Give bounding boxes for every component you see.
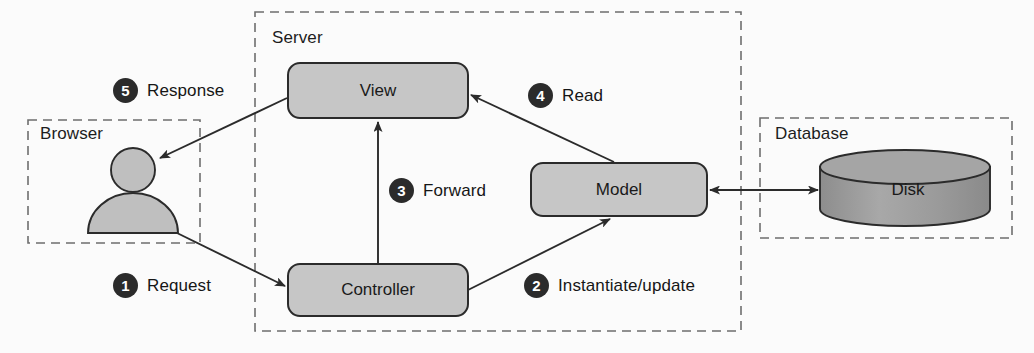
arrow-response — [160, 98, 287, 158]
node-label-disk: Disk — [848, 180, 968, 200]
node-label-controller: Controller — [288, 280, 468, 300]
step-badge-3: 3 — [389, 178, 414, 203]
step-label-instantiate-update: Instantiate/update — [558, 276, 695, 296]
step-badge-5: 5 — [113, 78, 138, 103]
step-badge-4: 4 — [528, 83, 553, 108]
mvc-architecture-diagram: Browser Server Database View Controller … — [0, 0, 1034, 353]
step-label-read: Read — [562, 86, 603, 106]
step-1-request: 1 Request — [113, 273, 211, 298]
step-2-instantiate-update: 2 Instantiate/update — [524, 273, 695, 298]
node-label-model: Model — [531, 180, 707, 200]
user-avatar-icon — [88, 148, 178, 233]
step-4-read: 4 Read — [528, 83, 603, 108]
step-label-forward: Forward — [423, 181, 486, 201]
group-label-database: Database — [775, 124, 849, 144]
step-label-request: Request — [147, 276, 211, 296]
group-label-browser: Browser — [40, 124, 103, 144]
step-3-forward: 3 Forward — [389, 178, 486, 203]
node-label-view: View — [288, 81, 468, 101]
step-5-response: 5 Response — [113, 78, 224, 103]
step-badge-2: 2 — [524, 273, 549, 298]
step-badge-1: 1 — [113, 273, 138, 298]
group-label-server: Server — [272, 28, 323, 48]
step-label-response: Response — [147, 81, 224, 101]
diagram-graphics-layer — [0, 0, 1034, 353]
